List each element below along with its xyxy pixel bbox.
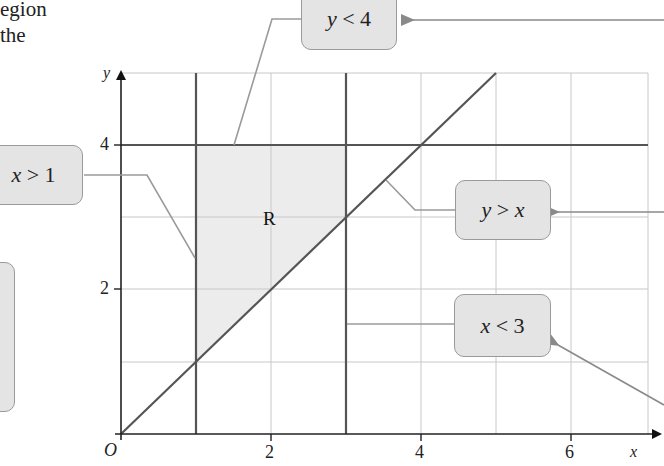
y-axis-label: y (103, 64, 110, 82)
x-tick-4: 4 (415, 442, 424, 463)
origin-label: O (104, 440, 117, 461)
label-x-lt-3: x < 3 (454, 294, 551, 357)
label-x-gt-1: x > 1 (0, 145, 83, 205)
y-tick-4: 4 (100, 134, 109, 155)
label-y-gt-x: y > x (455, 180, 551, 240)
inequality-graph (0, 0, 664, 466)
x-tick-2: 2 (265, 442, 274, 463)
y-tick-2: 2 (100, 278, 109, 299)
x-tick-6: 6 (565, 442, 574, 463)
leader-y-lt-4 (234, 19, 302, 145)
x-axis-label: x (630, 443, 637, 461)
region-r-label: R (263, 208, 276, 230)
label-y-lt-4: y < 4 (301, 0, 397, 50)
label-partial-left (0, 262, 15, 412)
boundary-y-eq-x (121, 73, 496, 434)
